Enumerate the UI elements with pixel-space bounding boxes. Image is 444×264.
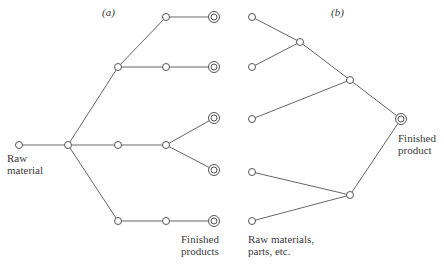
process-diagram — [0, 0, 444, 264]
panel-b-edges — [252, 17, 401, 221]
panel-b-title: (b) — [331, 6, 344, 18]
panel-b-nodes — [249, 14, 407, 225]
finished-product-label-line2: product — [398, 144, 436, 156]
finished-product-label-line1: Finished — [398, 132, 436, 144]
finished-products-label-line2: products — [181, 245, 219, 257]
finished-product-label: Finished product — [398, 132, 436, 156]
raw-materials-parts-label-line2: parts, etc. — [248, 245, 314, 257]
panel-a-title: (a) — [102, 6, 115, 18]
raw-materials-parts-label-line1: Raw materials, — [248, 233, 314, 245]
panel-a-finished-nodes — [209, 12, 220, 227]
panel-a-nodes — [16, 14, 170, 225]
raw-materials-parts-label: Raw materials, parts, etc. — [248, 233, 314, 257]
finished-products-label-line1: Finished — [181, 233, 219, 245]
raw-material-label-line2: material — [7, 164, 43, 176]
raw-material-label-line1: Raw — [7, 152, 43, 164]
raw-material-label: Raw material — [7, 152, 43, 176]
panel-a-edges — [19, 17, 214, 221]
finished-products-label: Finished products — [181, 233, 219, 257]
